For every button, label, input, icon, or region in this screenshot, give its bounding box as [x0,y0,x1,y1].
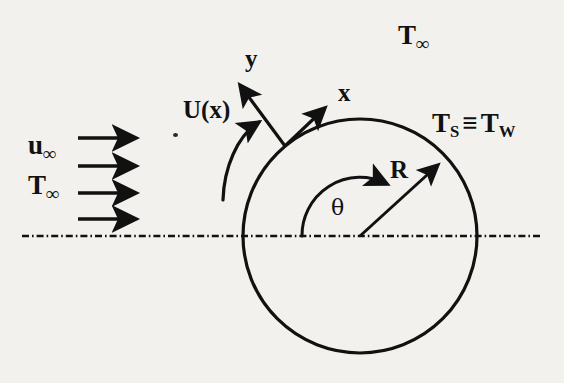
wall-temperature-base: T [481,108,499,138]
freestream-temperature-left-base: T [28,170,46,200]
freestream-temperature-top-base: T [398,20,416,50]
freestream-temperature-top-subscript: ∞ [416,33,429,54]
axis-y-arrow [240,85,285,146]
wall-temperature-subscript: W [499,122,516,141]
diagram-canvas: u∞ T∞ T∞ U(x) x y R θ TS≡TW [0,0,564,383]
label-external-velocity: U(x) [183,97,230,122]
label-angle-theta: θ [331,197,344,219]
label-axis-x: x [338,80,351,105]
surface-temperature-subscript: S [450,122,459,141]
label-freestream-temperature-left: T∞ [28,172,59,204]
scan-speck [173,133,178,137]
identity-relation-symbol: ≡ [462,108,477,138]
freestream-velocity-subscript: ∞ [43,143,56,164]
freestream-velocity-base: u [28,130,43,160]
label-freestream-temperature-top: T∞ [398,22,429,54]
diagram-vector-layer [0,0,564,383]
inflow-arrow-group [78,138,136,219]
label-axis-y: y [245,46,258,71]
freestream-temperature-left-subscript: ∞ [46,183,59,204]
label-freestream-velocity: u∞ [28,132,57,164]
label-surface-temperature: TS≡TW [432,110,515,141]
surface-temperature-base: T [432,108,450,138]
label-radius: R [390,157,408,182]
